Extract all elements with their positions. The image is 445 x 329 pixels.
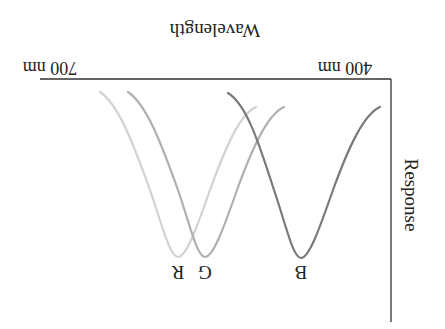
x-tick-700: 700 nm [23, 58, 78, 78]
series-label-b: B [295, 262, 308, 283]
y-axis-label: Response [401, 159, 422, 232]
curve-g [128, 92, 284, 257]
x-tick-400: 400 nm [318, 58, 373, 78]
x-axis-label: Wavelength [169, 20, 260, 41]
series-label-g: G [198, 262, 212, 283]
curve-b [228, 93, 380, 258]
spectral-response-chart: Wavelength 400 nm 700 nm Response B G R [0, 0, 445, 329]
series-label-r: R [171, 262, 184, 283]
curve-r [100, 92, 256, 257]
